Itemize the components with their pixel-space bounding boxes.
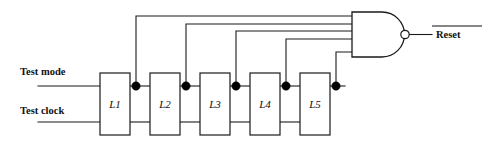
junction-dot-1 <box>132 82 140 90</box>
junction-dot-5 <box>332 82 340 90</box>
latch-box-L2[interactable]: L2 <box>150 73 180 135</box>
nand-gate-body <box>352 12 405 57</box>
latch-label-L2: L2 <box>158 98 171 110</box>
test-clock-label: Test clock <box>20 105 64 116</box>
latch-label-L3: L3 <box>208 98 221 110</box>
circuit-canvas: L1 L2 L3 L4 L5 <box>0 0 493 149</box>
junction-dot-4 <box>282 82 290 90</box>
latch-box-L5[interactable]: L5 <box>300 73 330 135</box>
latch-label-L1: L1 <box>108 98 121 110</box>
latch-label-L5: L5 <box>308 98 321 110</box>
nand-gate[interactable] <box>352 12 409 57</box>
latch-box-L1[interactable]: L1 <box>100 73 130 135</box>
test-mode-label: Test mode <box>20 66 66 77</box>
junction-dot-2 <box>182 82 190 90</box>
latch-label-L4: L4 <box>258 98 271 110</box>
latch-box-L4[interactable]: L4 <box>250 73 280 135</box>
input-wires <box>38 86 100 122</box>
nand-inversion-bubble-icon <box>401 30 409 38</box>
feedback-wire-5 <box>336 52 352 86</box>
junction-dot-3 <box>232 82 240 90</box>
latch-box-L3[interactable]: L3 <box>200 73 230 135</box>
circuit-diagram: L1 L2 L3 L4 L5 <box>0 0 493 149</box>
reset-label: Reset <box>436 29 461 40</box>
